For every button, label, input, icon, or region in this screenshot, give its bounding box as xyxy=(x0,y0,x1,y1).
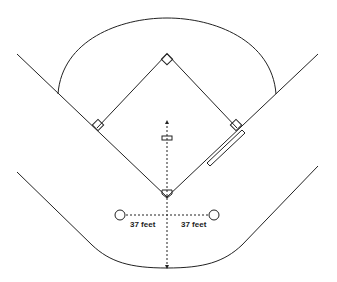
first-base xyxy=(230,119,241,130)
left-distance-label: 37 feet xyxy=(130,220,156,229)
softball-field-diagram: 37 feet 37 feet xyxy=(0,0,337,282)
arrow-up-icon xyxy=(165,120,169,124)
left-on-deck-circle xyxy=(115,210,125,220)
second-base xyxy=(161,54,172,65)
left-foul-line xyxy=(17,54,167,197)
right-on-deck-circle xyxy=(209,210,219,220)
backstop xyxy=(17,166,318,268)
runner-lane xyxy=(207,130,245,166)
outfield-arc xyxy=(58,18,276,94)
right-distance-label: 37 feet xyxy=(181,220,207,229)
third-base xyxy=(92,119,103,130)
right-foul-line xyxy=(167,54,318,197)
